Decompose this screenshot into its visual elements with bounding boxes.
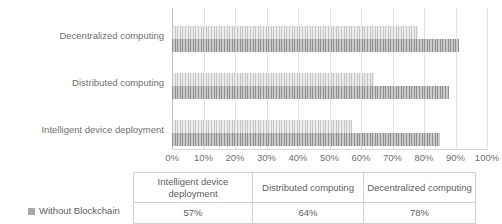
chart-legend: Without Blockchain	[28, 205, 120, 217]
xtick-0: 0%	[157, 152, 187, 164]
xtick-40: 40%	[283, 152, 313, 164]
xtick-20: 20%	[220, 152, 250, 164]
table-cell-0-1: 64%	[253, 203, 364, 224]
xtick-70: 70%	[378, 152, 408, 164]
bar-intelligent-lower[interactable]	[172, 133, 440, 146]
category-label-0: Decentralized computing	[59, 30, 164, 41]
table-row: 57% 64% 78%	[134, 203, 476, 224]
xtick-50: 50%	[315, 152, 345, 164]
category-label-1: Distributed computing	[72, 77, 164, 88]
category-axis-labels: Decentralized computing Distributed comp…	[0, 0, 168, 150]
bar-distributed-upper[interactable]	[172, 73, 374, 86]
table-header-cell-2: Decentralized computing	[364, 173, 476, 203]
xtick-90: 90%	[441, 152, 471, 164]
legend-swatch-icon	[28, 208, 35, 215]
table-header-cell-0: Intelligent device deployment	[134, 173, 253, 203]
xtick-10: 10%	[189, 152, 219, 164]
table-header-row: Intelligent device deployment Distribute…	[134, 173, 476, 203]
value-axis-ticks: 0% 10% 20% 30% 40% 50% 60% 70% 80% 90% 1…	[172, 152, 502, 166]
xtick-80: 80%	[409, 152, 439, 164]
table-cell-0-0: 57%	[134, 203, 253, 224]
table-cell-0-2: 78%	[364, 203, 476, 224]
bar-chart: Decentralized computing Distributed comp…	[0, 0, 489, 168]
plot-area	[172, 8, 487, 150]
table-header-cell-1: Distributed computing	[253, 173, 364, 203]
gridline-100	[487, 8, 488, 150]
xtick-30: 30%	[252, 152, 282, 164]
bar-decentralized-lower[interactable]	[172, 39, 459, 52]
data-table: Intelligent device deployment Distribute…	[133, 172, 476, 224]
bar-distributed-lower[interactable]	[172, 86, 449, 99]
gridline-90	[456, 8, 457, 150]
xtick-60: 60%	[346, 152, 376, 164]
bar-intelligent-upper[interactable]	[172, 120, 352, 133]
chart-figure: Decentralized computing Distributed comp…	[0, 0, 489, 223]
axis-baseline	[172, 149, 487, 150]
gridline-80	[424, 8, 425, 150]
bar-decentralized-upper[interactable]	[172, 26, 418, 39]
category-label-2: Intelligent device deployment	[41, 124, 164, 135]
legend-label-0: Without Blockchain	[39, 205, 120, 217]
xtick-100: 100%	[472, 152, 502, 164]
